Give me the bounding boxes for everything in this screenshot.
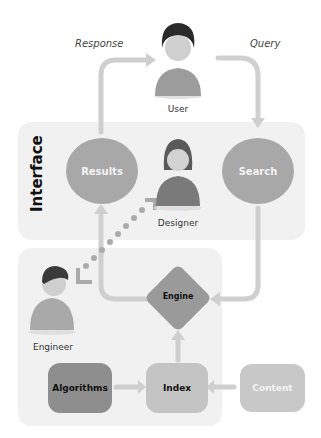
algorithms-node[interactable]: Algorithms <box>48 363 112 413</box>
index-node[interactable]: Index <box>146 363 208 413</box>
content-node[interactable]: Content <box>240 364 305 412</box>
engineer-label: Engineer <box>30 342 76 352</box>
engine-label: Engine <box>148 292 208 301</box>
